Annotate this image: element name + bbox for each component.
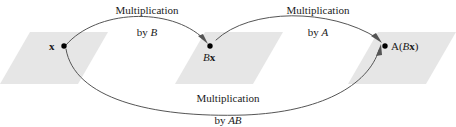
- arrow-ab-label-line1: Multiplication: [178, 92, 278, 105]
- point-x-dot: [61, 43, 66, 48]
- point-label-abx: A(Bx): [391, 40, 419, 53]
- transformation-composition-diagram: x Bx A(Bx) Multiplication by B Multiplic…: [0, 0, 456, 127]
- point-label-bx: Bx: [203, 51, 215, 64]
- point-abx-dot: [382, 43, 387, 48]
- arrow-b-label-line2: by B: [101, 26, 193, 39]
- point-label-x: x: [49, 40, 55, 53]
- arrow-b-label-line1: Multiplication: [101, 4, 193, 17]
- arrow-a-label-line1: Multiplication: [272, 4, 364, 17]
- arrow-b-label: Multiplication by B: [101, 4, 193, 39]
- arrow-ab-label-line2: by AB: [178, 114, 278, 127]
- intermediate-plane: [175, 32, 283, 84]
- arrow-a-label: Multiplication by A: [272, 4, 364, 39]
- point-bx-dot: [207, 43, 212, 48]
- arrow-a-label-line2: by A: [272, 26, 364, 39]
- arrow-ab-label: Multiplication by AB: [178, 92, 278, 127]
